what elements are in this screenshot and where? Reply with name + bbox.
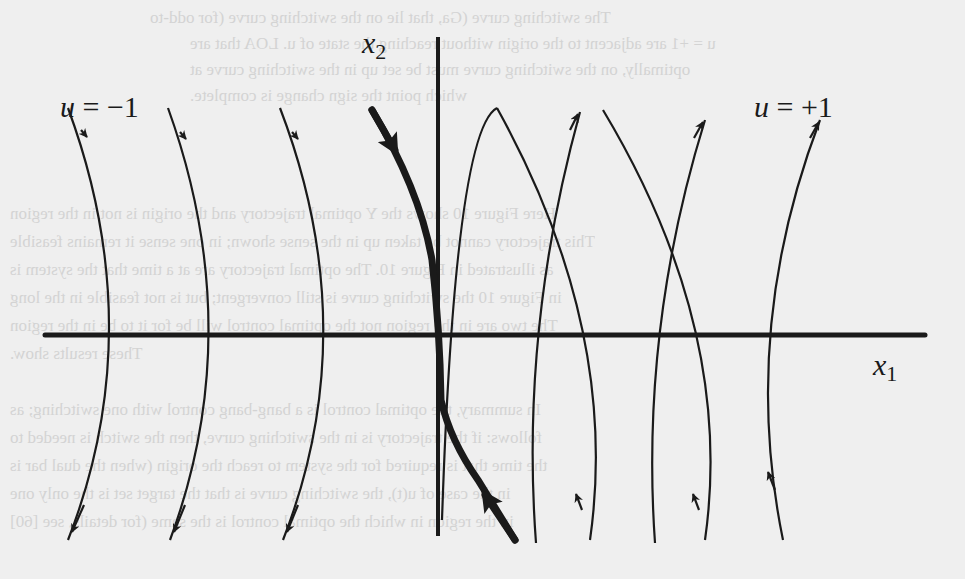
switching-arrow-top-icon bbox=[372, 110, 395, 150]
arrow-head-icon bbox=[292, 132, 298, 139]
trajectory-curve bbox=[533, 112, 580, 543]
phase-portrait bbox=[0, 0, 965, 579]
x2-axis-label: x2 bbox=[362, 26, 386, 65]
u-plus-one-label: u = +1 bbox=[754, 90, 833, 124]
u-minus-one-label: u = −1 bbox=[60, 90, 139, 124]
trajectory-curve bbox=[280, 108, 323, 540]
arrow-head-icon bbox=[287, 505, 298, 532]
x1-axis-label: x1 bbox=[873, 348, 897, 387]
trajectory-curve bbox=[603, 110, 711, 540]
switching-arrow-bottom-icon bbox=[485, 495, 515, 540]
trajectory-curve bbox=[442, 108, 497, 520]
trajectory-curve bbox=[652, 120, 705, 543]
trajectory-curve bbox=[497, 108, 596, 540]
trajectory-curve bbox=[168, 108, 209, 540]
trajectory-curve bbox=[768, 120, 820, 540]
u-minus-one-family bbox=[68, 108, 323, 540]
arrow-head-icon bbox=[693, 494, 699, 510]
u-plus-one-family bbox=[442, 108, 820, 543]
arrow-head-icon bbox=[180, 132, 186, 139]
arrow-head-icon bbox=[81, 130, 87, 137]
arrow-head-icon bbox=[576, 494, 582, 510]
trajectory-curve bbox=[68, 108, 109, 540]
arrow-head-icon bbox=[72, 505, 84, 532]
